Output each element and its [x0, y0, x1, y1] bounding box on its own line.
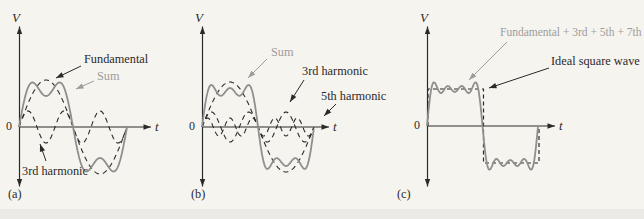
arrowhead — [17, 179, 22, 187]
panel-b: V t 0 (b) Sum 3rd harmonic 5th harmonic — [189, 10, 387, 201]
arrowhead — [200, 27, 205, 35]
panel-caption: (c) — [397, 187, 411, 201]
t-axis-label: t — [155, 119, 159, 134]
panel-caption: (b) — [191, 187, 205, 201]
annotation-harmonic-sum: Fundamental + 3rd + 5th + 7th — [500, 26, 642, 38]
v-axis-label: V — [12, 10, 22, 25]
panel-caption: (a) — [8, 187, 22, 201]
v-axis-label: V — [420, 10, 430, 25]
v-axis-label: V — [195, 10, 205, 25]
panel-c: V t 0 (c) Fundamental + 3rd + 5th + 7th … — [397, 10, 642, 201]
origin-label: 0 — [189, 119, 195, 133]
annotation-sum: Sum — [271, 45, 294, 59]
arrowhead — [489, 83, 497, 88]
t-axis-label: t — [559, 118, 563, 133]
harmonics-figure: V t 0 (a) Fundamental Sum 3rd harmonic V… — [0, 0, 644, 219]
arrowhead — [17, 27, 22, 35]
annotation-ideal-square-wave: Ideal square wave — [551, 54, 640, 68]
arrowhead — [290, 94, 296, 102]
arrowhead — [548, 123, 556, 128]
panel-a: V t 0 (a) Fundamental Sum 3rd harmonic — [6, 10, 159, 201]
arrowhead — [322, 124, 330, 129]
origin-label: 0 — [6, 119, 12, 133]
annotation-3rd-harmonic: 3rd harmonic — [302, 64, 368, 78]
arrowhead — [425, 179, 430, 187]
annotation-arrow-harmonic-sum — [469, 42, 507, 80]
arrowhead — [76, 83, 84, 89]
arrowhead — [40, 144, 45, 152]
t-axis-label: t — [333, 119, 337, 134]
annotation-sum: Sum — [97, 69, 120, 83]
arrowhead — [144, 124, 152, 129]
arrowhead — [425, 27, 430, 35]
annotation-5th-harmonic: 5th harmonic — [321, 89, 387, 103]
arrowhead — [56, 72, 64, 78]
arrowhead — [200, 179, 205, 187]
annotation-3rd-harmonic: 3rd harmonic — [22, 164, 88, 178]
annotation-fundamental: Fundamental — [84, 52, 149, 66]
annotation-arrow-ideal-square-wave — [489, 68, 549, 88]
figure-canvas: V t 0 (a) Fundamental Sum 3rd harmonic V… — [0, 0, 644, 219]
origin-label: 0 — [414, 118, 420, 132]
